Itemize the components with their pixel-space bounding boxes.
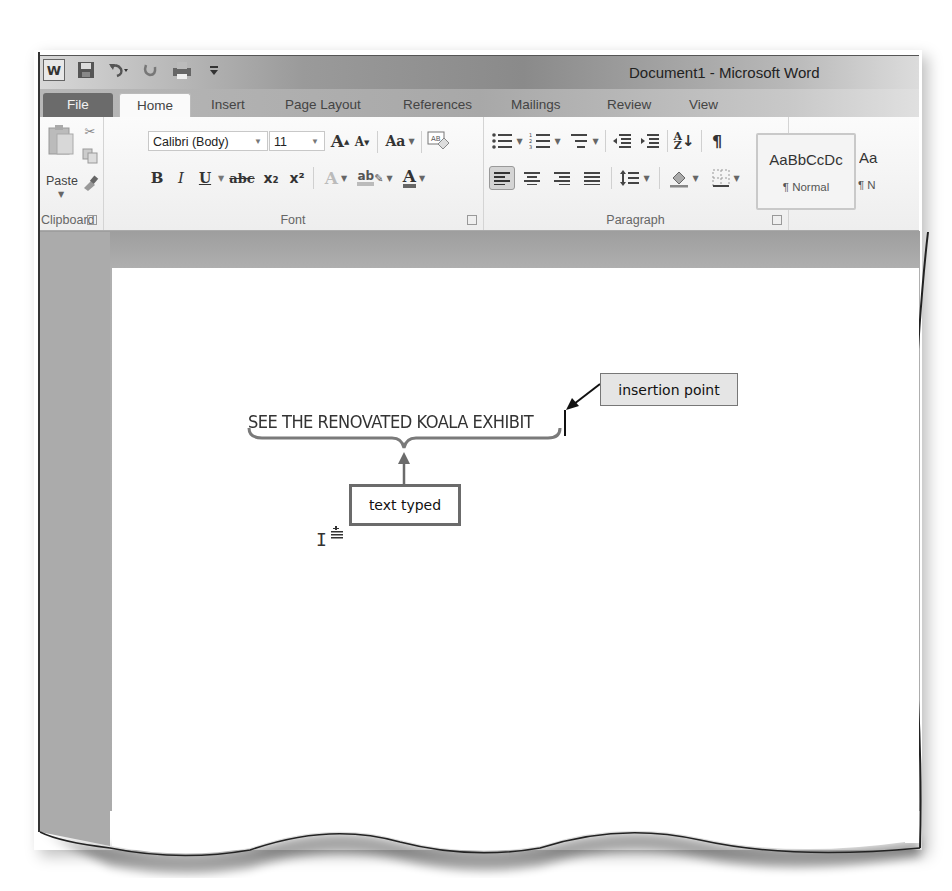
subscript-button[interactable]: x₂	[259, 167, 283, 189]
ribbon-tabs: File Home Insert Page Layout References …	[38, 89, 919, 117]
ibeam-cursor-icon: I	[316, 529, 327, 550]
borders-button[interactable]: ▼	[707, 166, 745, 190]
text-highlight-button[interactable]: ab✎▼	[355, 167, 395, 189]
paste-button[interactable]: Paste	[43, 173, 81, 189]
tab-insert[interactable]: Insert	[211, 93, 245, 117]
copy-icon[interactable]	[81, 147, 99, 165]
font-color-button[interactable]: A▼	[397, 167, 431, 189]
line-spacing-button[interactable]: ▼	[617, 166, 653, 190]
clipboard-dialog-launcher[interactable]	[87, 215, 97, 225]
font-name-dropdown-icon[interactable]: ▼	[254, 132, 262, 152]
justify-button[interactable]	[579, 166, 605, 190]
font-group: Calibri (Body) ▼ 11 ▼ A▲ A▼ Aa▼ AB B I U…	[103, 117, 484, 230]
paragraph-group: ▼ 123▼ ▼ AZ↓ ¶ ▼	[483, 117, 789, 230]
tab-page-layout[interactable]: Page Layout	[285, 93, 361, 117]
save-icon[interactable]	[75, 59, 97, 81]
font-name-combo[interactable]: Calibri (Body) ▼	[148, 131, 268, 151]
align-right-button[interactable]	[549, 166, 575, 190]
separator	[611, 167, 612, 189]
tab-file[interactable]: File	[43, 93, 113, 117]
shrink-font-button[interactable]: A▼	[353, 132, 371, 152]
redo-icon[interactable]	[139, 59, 161, 81]
font-size-combo[interactable]: 11 ▼	[269, 131, 325, 151]
format-painter-icon[interactable]	[81, 174, 99, 192]
font-dialog-launcher[interactable]	[467, 215, 477, 225]
font-group-label: Font	[103, 213, 483, 227]
text-effects-button[interactable]: A▼	[319, 167, 353, 189]
tab-references[interactable]: References	[403, 93, 472, 117]
change-case-button[interactable]: Aa▼	[383, 130, 417, 152]
separator	[701, 130, 702, 152]
separator	[659, 167, 660, 189]
font-size-dropdown-icon[interactable]: ▼	[311, 132, 319, 152]
style-next-name[interactable]: ¶ N	[858, 179, 882, 191]
text-typed-callout: text typed	[349, 484, 461, 526]
font-size-value: 11	[274, 135, 287, 149]
sort-button[interactable]: AZ↓	[671, 129, 697, 153]
decrease-indent-button[interactable]	[609, 129, 635, 153]
ribbon: Paste ▼ ✂ Clipboard Calibri (Body) ▼ 11 …	[38, 117, 919, 231]
style-next-sample[interactable]: Aa	[859, 149, 881, 166]
tab-home[interactable]: Home	[119, 93, 191, 118]
page-right-margin	[905, 268, 919, 843]
insertion-point-callout: insertion point	[600, 373, 738, 406]
align-center-button[interactable]	[519, 166, 545, 190]
insertion-point-caret	[564, 410, 566, 436]
bold-button[interactable]: B	[147, 167, 167, 189]
style-normal-sample: AaBbCcDc	[758, 151, 854, 168]
quick-access-toolbar: W	[43, 59, 225, 81]
underline-dropdown-icon[interactable]: ▼	[215, 167, 227, 189]
tab-review[interactable]: Review	[607, 93, 651, 117]
shading-button[interactable]: ▼	[665, 166, 703, 190]
multilevel-list-button[interactable]: ▼	[565, 129, 601, 153]
strikethrough-button[interactable]: abc	[228, 167, 256, 189]
cut-icon[interactable]: ✂	[81, 122, 99, 140]
clear-formatting-icon[interactable]: AB	[425, 129, 451, 153]
italic-button[interactable]: I	[171, 167, 191, 189]
superscript-button[interactable]: x²	[285, 167, 309, 189]
style-normal-name: ¶ Normal	[758, 181, 854, 193]
paste-icon[interactable]	[45, 123, 77, 157]
paragraph-group-label: Paragraph	[483, 213, 788, 227]
clipboard-group: Paste ▼ ✂ Clipboard	[39, 117, 104, 230]
undo-icon[interactable]	[107, 59, 129, 81]
document-typed-text[interactable]: SEE THE RENOVATED KOALA EXHIBIT	[248, 411, 533, 432]
tab-mailings[interactable]: Mailings	[511, 93, 561, 117]
document-workspace	[38, 231, 920, 811]
customize-toolbar-icon[interactable]	[203, 59, 225, 81]
print-preview-icon[interactable]	[171, 59, 193, 81]
show-hide-formatting-button[interactable]: ¶	[705, 129, 729, 153]
paragraph-dialog-launcher[interactable]	[772, 215, 782, 225]
svg-text:3: 3	[529, 144, 532, 150]
underline-button[interactable]: U	[195, 167, 215, 189]
increase-indent-button[interactable]	[637, 129, 663, 153]
title-bar: W Document1 - Microsoft Word	[38, 55, 919, 90]
separator	[421, 131, 422, 153]
tab-view[interactable]: View	[689, 93, 718, 117]
separator	[377, 131, 378, 153]
separator	[605, 130, 606, 152]
window-title: Document1 - Microsoft Word	[629, 64, 820, 81]
separator	[667, 130, 668, 152]
align-left-button[interactable]	[489, 166, 515, 190]
click-and-type-icon	[330, 526, 344, 543]
bullets-button[interactable]: ▼	[489, 129, 525, 153]
word-logo-icon[interactable]: W	[43, 59, 65, 81]
font-name-value: Calibri (Body)	[153, 135, 229, 149]
numbering-button[interactable]: 123▼	[527, 129, 563, 153]
svg-text:AB: AB	[431, 135, 441, 143]
paste-dropdown-icon[interactable]: ▼	[53, 189, 69, 199]
grow-font-button[interactable]: A▲	[329, 130, 351, 152]
style-normal[interactable]: AaBbCcDc ¶ Normal	[756, 133, 856, 210]
separator	[313, 167, 314, 189]
